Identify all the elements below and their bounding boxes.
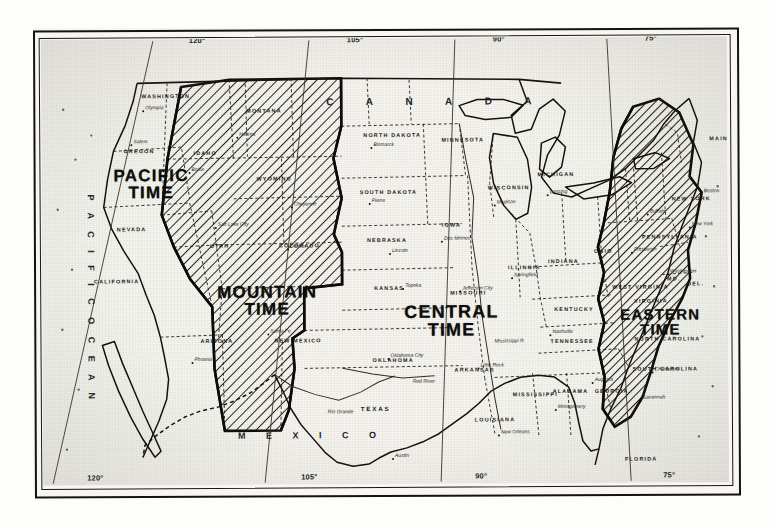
- zone-label-pacific: PACIFIC TIME: [114, 167, 189, 202]
- state-label: MISSOURI: [450, 290, 486, 296]
- city-label: Helena: [239, 132, 255, 137]
- city-dot: [189, 172, 191, 174]
- state-label: KANSAS: [374, 286, 404, 292]
- river-label: Rio Grande: [328, 408, 354, 414]
- state-label: IOWA: [442, 223, 461, 229]
- city-label: Cheyenne: [294, 201, 317, 206]
- city-dot: [369, 203, 371, 205]
- state-label: FLORIDA: [625, 457, 657, 463]
- state-label: CALIFORNIA: [94, 279, 139, 285]
- city-dot: [192, 362, 194, 364]
- city-label: Nashville: [552, 329, 572, 334]
- zone-label-pacific-line2: TIME: [114, 184, 189, 202]
- state-label: DEL.: [687, 281, 704, 286]
- river-label: Red River: [413, 378, 435, 384]
- state-label: ARIZONA: [200, 339, 233, 345]
- city-label: Bismarck: [373, 142, 394, 147]
- city-label: Springfield: [514, 272, 538, 277]
- city-label: Savannah: [643, 395, 666, 400]
- city-label: Oklahoma City: [390, 353, 423, 358]
- city-dot: [511, 277, 513, 279]
- city-dot: [701, 193, 703, 195]
- zone-label-mountain-line1: MOUNTAIN: [217, 283, 317, 301]
- state-label: GEORGIA: [595, 389, 629, 395]
- zone-label-central-line2: TIME: [404, 321, 499, 340]
- city-dot: [267, 334, 269, 336]
- country-label-canada: C A N A D A: [326, 95, 546, 107]
- city-dot: [478, 368, 480, 370]
- city-dot: [547, 194, 549, 196]
- zone-label-pacific-line1: PACIFIC: [114, 167, 189, 185]
- city-label: Pittsburgh: [634, 247, 657, 252]
- longitude-label-top: 105°: [347, 36, 363, 44]
- city-dot: [130, 144, 132, 146]
- city-label: Montgomery: [558, 404, 586, 409]
- city-label: Des Moines: [444, 236, 470, 241]
- city-label: Austin: [395, 453, 409, 458]
- city-dot: [441, 241, 443, 243]
- state-label: KENTUCKY: [554, 307, 594, 313]
- zone-label-central: CENTRAL TIME: [404, 302, 499, 339]
- state-label: NEVADA: [117, 227, 147, 233]
- zone-label-eastern: EASTERN TIME: [620, 306, 700, 337]
- city-dot: [689, 226, 691, 228]
- city-dot: [647, 214, 649, 216]
- city-dot: [459, 291, 461, 293]
- zone-label-mountain: MOUNTAIN TIME: [217, 283, 317, 318]
- state-label: TEXAS: [361, 406, 391, 412]
- city-label: Madison: [497, 199, 516, 204]
- city-dot: [498, 434, 500, 436]
- longitude-label-top: 75°: [645, 36, 657, 42]
- city-dot: [236, 137, 238, 139]
- state-label: MONTANA: [246, 109, 282, 115]
- state-label: UTAH: [210, 244, 229, 250]
- state-label: OHIO: [594, 249, 613, 255]
- city-label: New Orleans: [501, 429, 530, 434]
- city-label: Buffalo: [650, 209, 666, 214]
- longitude-label-bottom: 105°: [301, 472, 317, 481]
- state-label: MINNESOTA: [441, 137, 484, 143]
- river-label: Mississippi R.: [494, 337, 525, 343]
- city-dot: [215, 227, 217, 229]
- state-label: ILLINOIS: [508, 265, 540, 271]
- state-label: NEW YORK: [672, 196, 711, 202]
- city-dot: [494, 204, 496, 206]
- city-label: Phoenix: [195, 357, 213, 362]
- state-label: INDIANA: [548, 259, 579, 265]
- city-label: Pierre: [372, 198, 385, 203]
- map-canvas: C A N A D A M E X I C O P A C I F I C O …: [41, 36, 729, 486]
- state-label: NEBRASKA: [367, 238, 407, 244]
- city-label: Olympia: [145, 105, 163, 110]
- longitude-label-bottom: 75°: [663, 470, 675, 479]
- state-label: NORTH CAROLINA: [634, 336, 700, 342]
- city-dot: [640, 400, 642, 402]
- state-label: TENNESSEE: [550, 339, 593, 345]
- state-label: ALABAMA: [553, 389, 589, 395]
- city-label: Salt Lake City: [218, 222, 249, 227]
- city-label: Denver: [290, 243, 306, 248]
- city-label: Boise: [192, 167, 205, 172]
- state-label: PENNSYLVANIA: [642, 234, 698, 240]
- state-label: VIRGINIA: [634, 299, 668, 305]
- state-label: OREGON: [123, 149, 154, 155]
- city-dot: [402, 288, 404, 290]
- city-label: Santa Fe: [270, 328, 290, 333]
- city-label: Washington: [670, 268, 696, 273]
- longitude-label-top: 90°: [493, 36, 505, 43]
- city-dot: [549, 334, 551, 336]
- state-label: MISSISSIPPI: [513, 392, 558, 398]
- state-label: MD.: [667, 276, 681, 281]
- city-dot: [388, 358, 390, 360]
- state-label: NORTH DAKOTA: [363, 133, 421, 139]
- city-dot: [667, 274, 669, 276]
- city-label: Lansing: [550, 189, 568, 194]
- city-label: Topeka: [405, 283, 421, 288]
- city-label: Salem: [133, 139, 147, 144]
- city-label: Boston: [704, 188, 720, 193]
- city-dot: [287, 249, 289, 251]
- ocean-label-pacific: P A C I F I C O C E A N: [86, 195, 97, 405]
- zone-label-central-line1: CENTRAL: [404, 302, 499, 321]
- state-label: MAINE: [709, 136, 729, 142]
- city-dot: [592, 382, 594, 384]
- city-label: Charleston: [655, 366, 679, 371]
